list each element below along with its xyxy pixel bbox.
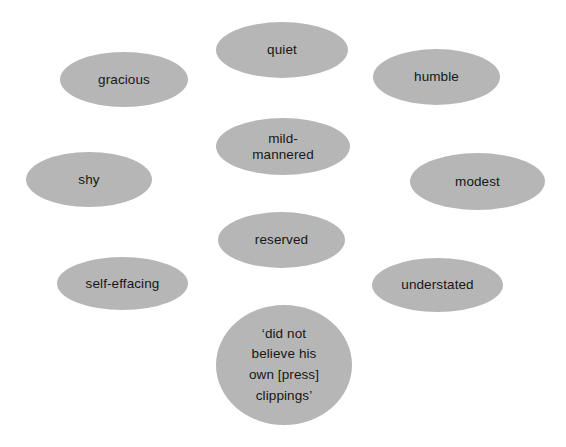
bubble-mild-mannered-label: mild- mannered: [246, 131, 320, 163]
bubble-self-effacing-label: self-effacing: [80, 276, 166, 292]
bubble-humble-label: humble: [408, 69, 465, 85]
bubble-humble: humble: [373, 49, 500, 105]
bubble-shy: shy: [26, 152, 152, 207]
bubble-self-effacing: self-effacing: [57, 257, 188, 310]
bubble-gracious: gracious: [60, 52, 188, 107]
bubble-mild-mannered: mild- mannered: [216, 118, 350, 175]
bubble-modest: modest: [410, 153, 545, 210]
bubble-understated: understated: [372, 258, 503, 312]
bubble-press-clippings-quote: ‘did not believe his own [press] clippin…: [216, 305, 352, 425]
bubble-understated-label: understated: [395, 277, 479, 293]
bubble-shy-label: shy: [72, 172, 105, 188]
bubble-gracious-label: gracious: [92, 72, 156, 88]
bubble-reserved: reserved: [218, 212, 345, 268]
bubble-modest-label: modest: [449, 174, 506, 190]
bubble-reserved-label: reserved: [249, 232, 314, 248]
bubble-quiet: quiet: [216, 22, 348, 78]
bubble-quiet-label: quiet: [261, 42, 303, 58]
word-cloud-diagram: quietgracioushumblemild- manneredshymode…: [0, 0, 566, 447]
bubble-press-clippings-quote-label: ‘did not believe his own [press] clippin…: [243, 324, 325, 406]
